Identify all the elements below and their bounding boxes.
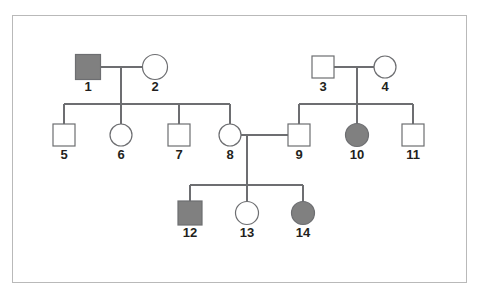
individual-label-8: 8 <box>226 147 233 162</box>
individual-label-3: 3 <box>319 79 326 94</box>
individual-symbol-9-male-square-unaffected <box>288 124 310 146</box>
individual-label-7: 7 <box>175 147 182 162</box>
individual-label-4: 4 <box>381 79 388 94</box>
individual-label-11: 11 <box>406 147 420 162</box>
individual-label-14: 14 <box>296 225 310 240</box>
individual-symbol-14-female-circle-affected <box>292 202 315 225</box>
individual-symbol-10-female-circle-affected <box>346 124 369 147</box>
individual-label-9: 9 <box>295 147 302 162</box>
individual-symbol-8-female-circle-unaffected <box>219 124 241 146</box>
individual-label-1: 1 <box>84 79 91 94</box>
individual-symbol-2-female-circle-unaffected <box>143 55 168 80</box>
individual-symbol-3-male-square-unaffected <box>312 56 334 78</box>
individual-label-2: 2 <box>151 79 158 94</box>
individual-symbol-6-female-circle-unaffected <box>110 124 132 146</box>
individual-label-13: 13 <box>240 225 254 240</box>
individual-symbol-1-male-square-affected <box>76 55 101 80</box>
individual-symbol-12-male-square-affected <box>178 201 202 225</box>
individual-label-5: 5 <box>60 147 67 162</box>
individual-label-12: 12 <box>183 225 197 240</box>
individual-symbol-5-male-square-unaffected <box>53 124 75 146</box>
individual-symbol-4-female-circle-unaffected <box>374 56 396 78</box>
individual-symbol-11-male-square-unaffected <box>402 124 424 146</box>
pedigree-symbols <box>53 55 424 226</box>
individual-label-10: 10 <box>350 147 364 162</box>
individual-label-6: 6 <box>117 147 124 162</box>
individual-symbol-7-male-square-unaffected <box>168 124 190 146</box>
individual-symbol-13-female-circle-unaffected <box>236 202 259 225</box>
pedigree-figure: 1234567891011121314 <box>0 0 481 293</box>
